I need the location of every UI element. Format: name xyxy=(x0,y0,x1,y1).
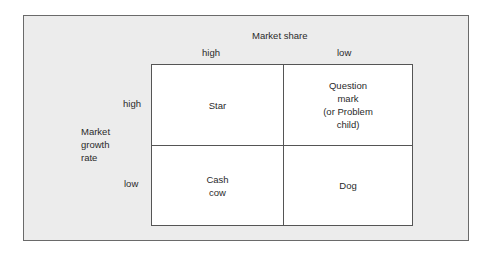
y-axis-low-label: low xyxy=(124,177,138,190)
x-axis-high-label: high xyxy=(202,46,220,59)
quadrant-question-mark: Question mark (or Problem child) xyxy=(284,65,412,145)
x-axis-low-label: low xyxy=(337,46,351,59)
quadrant-cash-cow: Cash cow xyxy=(152,146,283,225)
x-axis-title: Market share xyxy=(252,29,307,42)
bcg-matrix-grid: Star Question mark (or Problem child) Ca… xyxy=(151,64,413,226)
y-axis-high-label: high xyxy=(123,97,141,110)
quadrant-dog: Dog xyxy=(284,146,412,225)
quadrant-star: Star xyxy=(152,65,283,145)
y-axis-title: Market growth rate xyxy=(81,125,110,164)
